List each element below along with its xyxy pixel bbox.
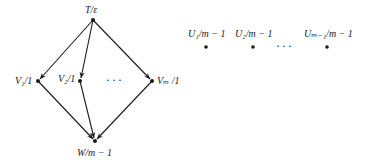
label-u2: U₂/m − 1 [235, 29, 272, 39]
edge-t-v2 [81, 20, 93, 78]
node-u2 [251, 45, 255, 49]
edge-v1-w [38, 81, 93, 139]
node-um1 [325, 45, 329, 49]
label-u1: U₁/m − 1 [188, 29, 225, 39]
label-w: W/m − 1 [77, 148, 112, 158]
node-v2 [78, 79, 82, 83]
edge-vm-w [97, 81, 152, 139]
label-v2: V₂/1 [58, 74, 75, 84]
diagram-canvas: T/ε V₁/1 V₂/1 ··· Vₘ /1 W/m − 1 U₁/m − 1… [0, 0, 368, 165]
node-v1 [36, 79, 40, 83]
graph-edges [0, 0, 368, 165]
label-um1: Uₘ₋₁/m − 1 [304, 29, 353, 39]
label-vm: Vₘ /1 [157, 76, 180, 86]
node-w [93, 139, 97, 143]
ellipsis-v-nodes: ··· [106, 74, 124, 86]
ellipsis-u-nodes: ··· [276, 40, 294, 52]
node-t [91, 18, 95, 22]
label-t: T/ε [85, 5, 97, 15]
node-vm [150, 79, 154, 83]
node-u1 [204, 45, 208, 49]
edge-t-v1 [40, 20, 93, 79]
edge-t-vm [93, 20, 150, 79]
edge-v2-w [80, 81, 94, 138]
label-v1: V₁/1 [15, 76, 32, 86]
